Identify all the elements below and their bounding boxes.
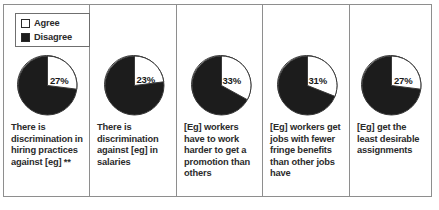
pie-chart-1: 27% — [17, 55, 76, 114]
pie-svg-3 — [191, 55, 252, 116]
panel-caption-4: [Eg] workers get jobs with fewer fringe … — [270, 122, 344, 180]
panel-caption-2: There is discrimination against [eg] in … — [97, 122, 171, 168]
pie-chart-4: 31% — [277, 55, 336, 114]
pie-value-label-1: 27% — [50, 75, 68, 86]
pie-svg-2 — [104, 55, 165, 116]
panel-caption-5: [Eg] get the least desirable assignments — [357, 122, 426, 157]
legend-label-disagree: Disagree — [34, 32, 72, 43]
chart-legend: Agree Disagree — [15, 13, 90, 47]
panel-caption-1: There is discrimination in hiring practi… — [11, 122, 84, 168]
pie-value-label-3: 33% — [223, 75, 241, 86]
pie-svg-4 — [277, 55, 338, 116]
chart-frame: 27% There is discrimination in hiring pr… — [3, 4, 432, 197]
legend-swatch-agree-icon — [21, 19, 30, 28]
pie-chart-3: 33% — [191, 55, 250, 114]
legend-label-agree: Agree — [34, 18, 60, 29]
pie-chart-panel-figure: 27% There is discrimination in hiring pr… — [0, 0, 439, 210]
pie-wrap-3: 33% — [177, 53, 263, 115]
pie-value-label-5: 27% — [394, 75, 412, 86]
panel-caption-3: [Eg] workers have to work harder to get … — [184, 122, 258, 180]
pie-svg-5 — [361, 55, 422, 116]
pie-chart-5: 27% — [361, 55, 420, 114]
pie-wrap-1: 27% — [4, 53, 89, 115]
pie-wrap-4: 31% — [263, 53, 349, 115]
legend-swatch-disagree-icon — [21, 33, 30, 42]
chart-panel-5: 27% [Eg] get the least desirable assignm… — [350, 5, 431, 198]
legend-item-disagree: Disagree — [21, 31, 89, 44]
pie-svg-1 — [17, 55, 78, 116]
chart-panel-4: 31% [Eg] workers get jobs with fewer fri… — [263, 5, 349, 198]
pie-value-label-4: 31% — [309, 75, 327, 86]
pie-value-label-2: 23% — [137, 74, 155, 85]
pie-wrap-2: 23% — [90, 53, 176, 115]
legend-item-agree: Agree — [21, 17, 89, 30]
chart-panel-2: 23% There is discrimination against [eg]… — [90, 5, 176, 198]
chart-panel-3: 33% [Eg] workers have to work harder to … — [177, 5, 263, 198]
pie-wrap-5: 27% — [350, 53, 431, 115]
pie-chart-2: 23% — [104, 55, 163, 114]
